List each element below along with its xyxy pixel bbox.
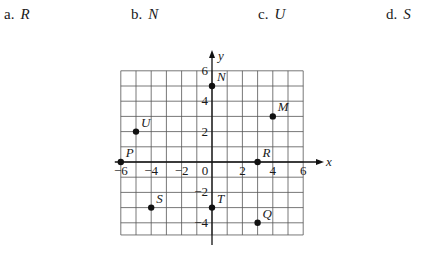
point-s-label: S — [156, 191, 163, 206]
point-n-dot — [209, 83, 215, 89]
x-tick-label: 4 — [270, 163, 277, 178]
y-tick-label: −4 — [194, 215, 208, 230]
point-t-dot — [209, 204, 215, 210]
point-n-label: N — [216, 69, 227, 84]
y-tick-label: −2 — [194, 184, 208, 199]
point-p-dot — [118, 159, 124, 165]
y-tick-label: 4 — [202, 93, 209, 108]
point-r-label: R — [262, 145, 271, 160]
y-tick-label: 6 — [202, 63, 209, 78]
point-q-dot — [254, 220, 260, 226]
point-r-dot — [254, 159, 260, 165]
x-axis-label: x — [325, 154, 332, 169]
point-u-label: U — [141, 115, 152, 130]
x-tick-label: −2 — [175, 163, 189, 178]
y-axis-label: y — [216, 48, 224, 63]
point-p-label: P — [125, 145, 134, 160]
y-tick-label: 2 — [202, 124, 209, 139]
x-tick-label: −6 — [114, 163, 128, 178]
point-m-label: M — [277, 99, 290, 114]
coordinate-plane: xy −6−4−20246−4−2246 NMUPRSTQ — [0, 0, 422, 260]
x-tick-label: 2 — [239, 163, 246, 178]
x-tick-label: −4 — [144, 163, 158, 178]
x-tick-label: 0 — [202, 163, 209, 178]
point-s-dot — [148, 204, 154, 210]
x-axis-arrow-icon — [316, 159, 324, 165]
y-axis-arrow-icon — [209, 50, 215, 58]
point-q-label: Q — [263, 206, 273, 221]
point-m-dot — [270, 113, 276, 119]
point-t-label: T — [217, 191, 225, 206]
point-u-dot — [133, 128, 139, 134]
x-tick-label: 6 — [300, 163, 307, 178]
